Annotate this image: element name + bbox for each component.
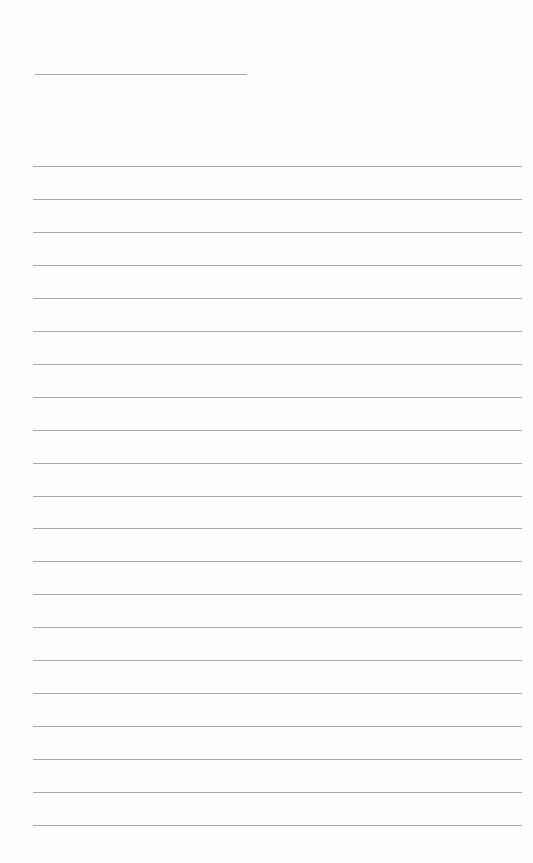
ruled-line bbox=[33, 660, 522, 661]
ruled-line bbox=[33, 397, 522, 398]
ruled-line bbox=[33, 726, 522, 727]
ruled-line bbox=[33, 759, 522, 760]
ruled-line bbox=[33, 825, 522, 826]
ruled-line bbox=[33, 199, 522, 200]
ruled-line bbox=[33, 166, 522, 167]
ruled-line bbox=[33, 298, 522, 299]
ruled-line bbox=[33, 627, 522, 628]
lined-paper-page bbox=[0, 0, 533, 863]
ruled-line bbox=[33, 561, 522, 562]
ruled-line bbox=[33, 528, 522, 529]
ruled-line bbox=[33, 463, 522, 464]
ruled-line bbox=[33, 265, 522, 266]
ruled-line bbox=[33, 792, 522, 793]
ruled-line bbox=[33, 693, 522, 694]
header-rule bbox=[35, 74, 247, 75]
ruled-line bbox=[33, 232, 522, 233]
ruled-line bbox=[33, 594, 522, 595]
ruled-line bbox=[33, 364, 522, 365]
ruled-line bbox=[33, 496, 522, 497]
ruled-line bbox=[33, 331, 522, 332]
ruled-line bbox=[33, 430, 522, 431]
